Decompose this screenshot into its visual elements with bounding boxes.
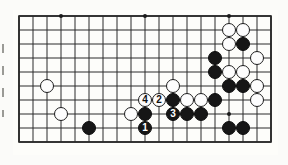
stone-white-move-4[interactable]: 4 <box>138 93 152 107</box>
move-number-label: 1 <box>139 122 151 134</box>
stone-white-move-2[interactable]: 2 <box>152 93 166 107</box>
star-point <box>143 14 147 18</box>
go-board-figure: 4213 <box>0 0 288 165</box>
scan-edge-mark-4 <box>2 110 4 117</box>
scan-edge-mark-2 <box>2 66 4 75</box>
stone-black-move-3[interactable]: 3 <box>166 107 180 121</box>
star-point <box>227 14 231 18</box>
move-number-label: 3 <box>167 108 179 120</box>
scan-edge-mark-1 <box>2 44 4 53</box>
star-point <box>227 112 231 116</box>
go-board[interactable]: 4213 <box>13 10 278 155</box>
stone-black-move-1[interactable]: 1 <box>138 121 152 135</box>
star-point <box>59 14 63 18</box>
move-number-label: 2 <box>153 94 165 106</box>
move-number-label: 4 <box>139 94 151 106</box>
scan-edge-mark-3 <box>2 88 4 97</box>
